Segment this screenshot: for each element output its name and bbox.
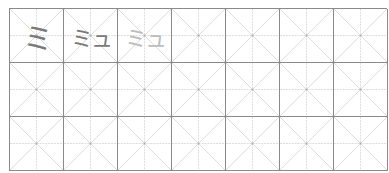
practice-character bbox=[280, 9, 333, 62]
practice-cell bbox=[64, 117, 118, 171]
practice-character bbox=[172, 63, 225, 116]
practice-character bbox=[172, 9, 225, 62]
practice-cell: ミ bbox=[10, 9, 64, 63]
practice-cell bbox=[172, 117, 226, 171]
practice-character bbox=[172, 117, 225, 170]
practice-sheet: ミミュミュ bbox=[9, 8, 387, 170]
practice-cell bbox=[10, 117, 64, 171]
practice-cell bbox=[118, 63, 172, 117]
practice-character bbox=[334, 117, 387, 170]
practice-character bbox=[280, 117, 333, 170]
practice-character bbox=[64, 117, 117, 170]
practice-character bbox=[10, 117, 63, 170]
practice-character bbox=[64, 63, 117, 116]
practice-cell bbox=[334, 117, 388, 171]
practice-character bbox=[334, 63, 387, 116]
practice-character bbox=[226, 117, 279, 170]
practice-character: ミュ bbox=[64, 9, 117, 62]
practice-cell bbox=[334, 9, 388, 63]
practice-cell: ミュ bbox=[64, 9, 118, 63]
practice-grid: ミミュミュ bbox=[9, 8, 387, 171]
practice-cell bbox=[280, 9, 334, 63]
practice-cell bbox=[64, 63, 118, 117]
practice-cell bbox=[226, 63, 280, 117]
practice-character: ミュ bbox=[118, 9, 171, 62]
practice-character bbox=[280, 63, 333, 116]
practice-character bbox=[10, 63, 63, 116]
practice-character: ミ bbox=[10, 9, 63, 62]
practice-character bbox=[226, 9, 279, 62]
practice-cell bbox=[226, 9, 280, 63]
practice-cell bbox=[226, 117, 280, 171]
practice-cell: ミュ bbox=[118, 9, 172, 63]
practice-cell bbox=[280, 117, 334, 171]
practice-cell bbox=[172, 9, 226, 63]
practice-cell bbox=[334, 63, 388, 117]
practice-character bbox=[118, 117, 171, 170]
practice-character bbox=[226, 63, 279, 116]
practice-cell bbox=[118, 117, 172, 171]
practice-character bbox=[334, 9, 387, 62]
practice-character bbox=[118, 63, 171, 116]
practice-cell bbox=[280, 63, 334, 117]
practice-cell bbox=[172, 63, 226, 117]
practice-cell bbox=[10, 63, 64, 117]
